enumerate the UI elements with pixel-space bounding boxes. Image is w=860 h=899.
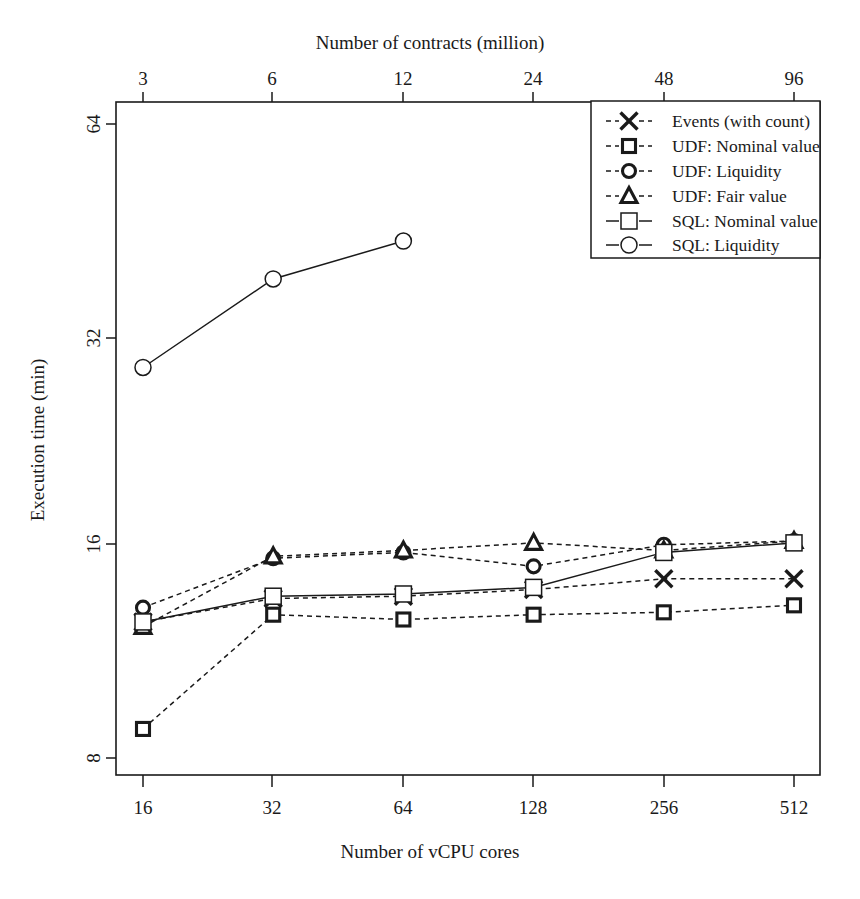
x-axis-title: Number of vCPU cores: [341, 841, 520, 862]
square-large-icon: [621, 213, 637, 229]
series-line: [143, 579, 794, 622]
chart-figure: Number of contracts (million) 3 6 12 24 …: [0, 0, 860, 899]
legend-label: UDF: Fair value: [672, 186, 787, 206]
top-tick-label: 12: [394, 68, 413, 89]
y-tick-label: 16: [83, 535, 104, 554]
data-point: [656, 544, 672, 560]
y-axis-tick-labels: 64 32 16 8: [83, 114, 104, 763]
legend-label: UDF: Nominal value: [672, 136, 820, 156]
data-point: [137, 601, 150, 614]
data-point: [265, 588, 281, 604]
x-tick-label: 512: [780, 797, 809, 818]
series-line: [143, 605, 794, 729]
data-point: [657, 606, 670, 619]
circle-small-icon: [623, 165, 636, 178]
circle-large-icon: [621, 237, 637, 253]
bottom-axis-ticks: [143, 775, 794, 787]
square-small-icon: [623, 140, 636, 153]
data-point: [265, 548, 281, 563]
x-tick-label: 64: [394, 797, 414, 818]
legend-label: SQL: Nominal value: [672, 211, 818, 231]
series-0: [135, 570, 803, 630]
x-tick-label: 128: [519, 797, 548, 818]
data-point: [786, 535, 802, 551]
bottom-axis-tick-labels: 16 32 64 128 256 512: [134, 797, 809, 818]
top-tick-label: 3: [138, 68, 148, 89]
legend-label: Events (with count): [672, 111, 810, 131]
y-axis-ticks: [106, 124, 116, 758]
legend-label: SQL: Liquidity: [672, 235, 780, 255]
x-tick-label: 256: [650, 797, 679, 818]
series-4: [135, 535, 802, 630]
series-1: [137, 599, 801, 736]
series-line: [143, 541, 794, 627]
data-point: [265, 271, 281, 287]
data-point: [526, 534, 542, 549]
y-tick-label: 32: [83, 329, 104, 348]
x-tick-label: 16: [134, 797, 153, 818]
series-layer: [135, 233, 803, 735]
top-tick-label: 48: [655, 68, 674, 89]
y-tick-label: 64: [83, 114, 104, 134]
series-5: [135, 233, 411, 375]
data-point: [395, 542, 411, 557]
data-point: [788, 599, 801, 612]
data-point: [395, 233, 411, 249]
data-point: [137, 722, 150, 735]
legend: Events (with count) UDF: Nominal value U…: [591, 101, 820, 258]
chart-canvas: Number of contracts (million) 3 6 12 24 …: [0, 0, 860, 899]
data-point: [526, 579, 542, 595]
x-tick-label: 32: [263, 797, 282, 818]
series-line: [143, 241, 403, 368]
legend-label: UDF: Liquidity: [672, 161, 782, 181]
top-axis-tick-labels: 3 6 12 24 48 96: [138, 68, 803, 89]
top-axis-title: Number of contracts (million): [316, 32, 544, 54]
y-axis-title: Execution time (min): [27, 359, 49, 522]
series-3: [135, 533, 802, 634]
y-tick-label: 8: [83, 753, 104, 763]
top-tick-label: 6: [267, 68, 277, 89]
data-point: [395, 586, 411, 602]
data-point: [397, 613, 410, 626]
data-point: [267, 608, 280, 621]
data-point: [527, 608, 540, 621]
data-point: [786, 570, 803, 587]
top-tick-label: 96: [785, 68, 804, 89]
top-tick-label: 24: [524, 68, 544, 89]
data-point: [135, 614, 151, 630]
data-point: [135, 359, 151, 375]
data-point: [527, 560, 540, 573]
